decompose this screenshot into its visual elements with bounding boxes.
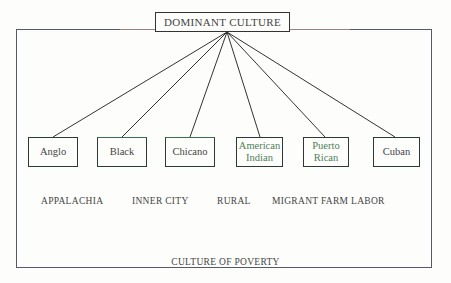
culture-label: Cuban bbox=[383, 146, 410, 158]
culture-box-cuban: Cuban bbox=[373, 137, 420, 167]
dominant-culture-label: DOMINANT CULTURE bbox=[164, 16, 281, 28]
culture-label: Chicano bbox=[173, 146, 208, 158]
culture-label: Puerto Rican bbox=[310, 140, 342, 164]
region-inner-city: INNER CITY bbox=[132, 196, 189, 206]
dominant-culture-box: DOMINANT CULTURE bbox=[155, 12, 290, 32]
culture-of-poverty-frame bbox=[16, 29, 432, 268]
region-rural: RURAL bbox=[217, 196, 251, 206]
culture-box-puerto-rican: Puerto Rican bbox=[303, 137, 349, 167]
culture-box-black: Black bbox=[97, 137, 147, 167]
region-migrant-farm-labor: MIGRANT FARM LABOR bbox=[272, 196, 385, 206]
culture-box-american-indian: American Indian bbox=[236, 137, 283, 167]
culture-of-poverty-label: CULTURE OF POVERTY bbox=[0, 257, 451, 267]
culture-label: Anglo bbox=[40, 146, 66, 158]
culture-box-chicano: Chicano bbox=[165, 137, 215, 167]
region-appalachia: APPALACHIA bbox=[41, 196, 103, 206]
culture-label: Black bbox=[110, 146, 135, 158]
culture-box-anglo: Anglo bbox=[28, 137, 78, 167]
culture-label: American Indian bbox=[239, 140, 280, 164]
